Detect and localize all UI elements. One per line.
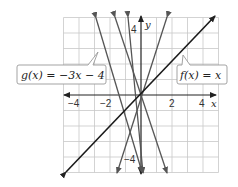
- label-g: g(x) = −3x − 4: [17, 52, 106, 84]
- svg-text:f(x) = x: f(x) = x: [179, 69, 222, 82]
- svg-text:−2: −2: [100, 98, 112, 109]
- svg-text:−4: −4: [68, 98, 80, 109]
- svg-text:y: y: [144, 19, 151, 30]
- svg-text:−4: −4: [124, 154, 136, 165]
- svg-text:x: x: [211, 98, 217, 109]
- graph: −4 −2 2 4 x 4 y −4 g(x) = −3x − 4 f(x) =…: [0, 0, 238, 187]
- svg-text:g(x) = −3x − 4: g(x) = −3x − 4: [21, 69, 105, 82]
- svg-text:2: 2: [169, 98, 175, 109]
- svg-text:4: 4: [199, 98, 205, 109]
- svg-text:4: 4: [131, 24, 137, 35]
- label-f: f(x) = x: [177, 55, 227, 84]
